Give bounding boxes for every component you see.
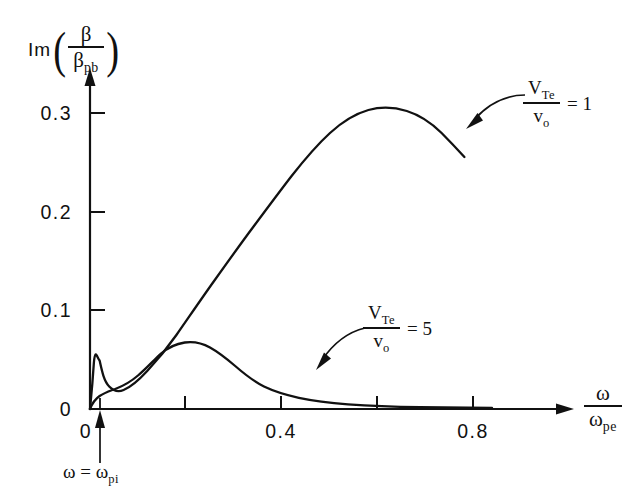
y-axis-label-open-paren: ( xyxy=(53,26,66,73)
callout-leader-curve-1 xyxy=(466,95,525,129)
omega-pi-annotation: ω = ωpi xyxy=(63,462,119,485)
x-tick-label-0.8: 0.8 xyxy=(457,420,489,442)
x-tick-label-0.4: 0.4 xyxy=(265,420,297,442)
x-axis-label: ω ωpe xyxy=(584,383,622,434)
curve-vte-vo-1 xyxy=(90,108,464,409)
y-tick-label-0.1: 0.1 xyxy=(40,299,72,321)
curve-2-label-equals: = xyxy=(407,318,418,339)
y-axis-label-close-paren: ) xyxy=(106,26,119,73)
x-axis-label-denominator: ωpe xyxy=(584,407,622,434)
curve-1-label-numerator: VTe xyxy=(523,78,560,104)
y-axis-label-numerator: β xyxy=(68,24,104,48)
curve-2-label-denominator: vo xyxy=(363,329,400,354)
callout-arrowhead-2 xyxy=(316,353,331,371)
x-tick-labels: 0 0.4 0.8 xyxy=(80,420,489,442)
y-axis-label-fraction: β βpb xyxy=(68,24,104,75)
omega-pi-subscript: pi xyxy=(108,472,119,486)
callout-arrowhead-1 xyxy=(466,113,483,129)
curve-2-label-fraction: VTe vo xyxy=(363,303,400,355)
curve-1-label-numerator-subscript: Te xyxy=(542,88,555,102)
curve-2-label-numerator: VTe xyxy=(363,303,400,329)
omega-pi-equals: = xyxy=(80,461,91,482)
y-axis-label-denominator-subscript: pb xyxy=(84,60,99,75)
curve-2-label-denominator-base: v xyxy=(373,330,383,351)
x-axis-label-numerator: ω xyxy=(584,383,622,407)
x-axis xyxy=(90,404,574,415)
y-tick-labels: 0.3 0.2 0.1 0 xyxy=(40,102,72,420)
curve-1-label-fraction: VTe vo xyxy=(523,78,560,130)
omega-pi-omega: ω xyxy=(63,461,76,482)
y-axis-label: Im( β βpb ) xyxy=(28,24,121,75)
curve-2-label-numerator-subscript: Te xyxy=(382,313,395,327)
curve-1-label-numerator-base: V xyxy=(528,77,542,98)
curve-1-label-denominator-base: v xyxy=(533,105,543,126)
x-axis-arrowhead xyxy=(556,404,574,415)
curve-1-label-value: 1 xyxy=(583,93,593,114)
curve-1-label-equals: = xyxy=(567,93,578,114)
y-axis-ticks xyxy=(90,113,105,310)
y-axis-label-denominator-base: β xyxy=(73,48,84,72)
x-axis-label-fraction: ω ωpe xyxy=(584,383,622,434)
x-axis-label-denominator-subscript: pe xyxy=(603,419,617,434)
curve-2-label-denominator-subscript: o xyxy=(383,341,390,355)
x-tick-label-0: 0 xyxy=(80,420,92,442)
callout-leader-curve-2 xyxy=(316,328,365,370)
y-tick-label-0.3: 0.3 xyxy=(40,102,72,124)
curve-2-label-value: 5 xyxy=(423,318,433,339)
curve-1-label: VTe vo = 1 xyxy=(523,78,592,130)
curve-2-label: VTe vo = 5 xyxy=(363,303,432,355)
curve-1-label-denominator-subscript: o xyxy=(543,116,550,130)
y-axis-label-im: Im xyxy=(28,39,51,60)
figure-container: 0.3 0.2 0.1 0 0 0.4 0.8 xyxy=(0,0,643,499)
x-axis-label-denominator-base: ω xyxy=(589,407,603,431)
omega-pi-arrow xyxy=(95,410,105,463)
omega-pi-arrowhead xyxy=(95,410,105,428)
y-axis-label-denominator: βpb xyxy=(68,48,104,75)
curve-2-label-numerator-base: V xyxy=(368,302,382,323)
y-tick-label-0: 0 xyxy=(60,398,72,420)
y-tick-label-0.2: 0.2 xyxy=(40,201,72,223)
curve-1-label-denominator: vo xyxy=(523,104,560,129)
omega-pi-omega-2: ω xyxy=(96,461,109,482)
